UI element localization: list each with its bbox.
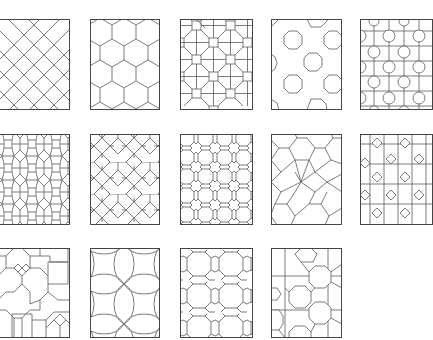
tiling-square-diagonal-graphic xyxy=(0,19,70,110)
tiling-hexagon-square-lattice-graphic xyxy=(0,134,70,225)
tiling-panel-hexagonal xyxy=(90,19,160,110)
tiling-hexagonal-graphic xyxy=(90,19,160,110)
tiling-panel-cross-star-interlace xyxy=(90,134,160,225)
tiling-panel-octagon-cross-interlace xyxy=(180,248,253,338)
tiling-panel-hexagon-square-lattice xyxy=(0,134,70,225)
tiling-panel-scalloped-quatrefoil xyxy=(90,248,160,338)
tiling-panel-sparse-octagons xyxy=(271,19,342,110)
tiling-cross-star-interlace-graphic xyxy=(90,134,160,225)
tiling-panel-square-diagonal xyxy=(0,19,70,110)
tiling-sparse-octagons-graphic xyxy=(271,19,342,110)
tiling-six-point-star-hexagons-graphic xyxy=(271,134,342,225)
tiling-diamond-cross-grid-graphic xyxy=(360,134,433,225)
tiling-octagon-cross-large-graphic xyxy=(271,248,342,338)
tiling-circle-octagon-lattice-graphic xyxy=(180,134,253,225)
tiling-octagon-square-graphic xyxy=(180,19,253,110)
tiling-panel-octagon-square-mixed xyxy=(0,248,70,338)
tiling-octagon-cross-interlace-graphic xyxy=(180,248,253,338)
tiling-panel-octagon-cross-grid xyxy=(360,19,433,110)
tiling-panel-octagon-cross-large xyxy=(271,248,342,338)
tiling-scalloped-quatrefoil-graphic xyxy=(90,248,160,338)
tiling-panel-circle-octagon-lattice xyxy=(180,134,253,225)
tiling-panel-diamond-cross-grid xyxy=(360,134,433,225)
tiling-octagon-square-mixed-graphic xyxy=(0,248,70,338)
tiling-octagon-cross-grid-graphic xyxy=(360,19,433,110)
tiling-panel-octagon-square xyxy=(180,19,253,110)
tiling-panel-six-point-star-hexagons xyxy=(271,134,342,225)
